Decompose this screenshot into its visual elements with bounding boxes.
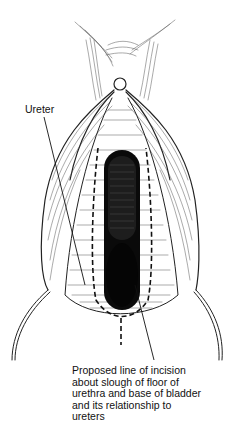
incision-leader-line bbox=[135, 285, 154, 360]
ureter-label: Ureter bbox=[25, 104, 54, 116]
incision-label-line: Proposed line of incision bbox=[72, 365, 232, 377]
meatus-knob bbox=[114, 78, 126, 90]
incision-label-line: urethra and base of bladder bbox=[72, 388, 232, 400]
urethral-lumen bbox=[104, 150, 140, 310]
incision-label: Proposed line of incision about slough o… bbox=[72, 365, 232, 423]
incision-label-line: ureters bbox=[72, 411, 232, 423]
